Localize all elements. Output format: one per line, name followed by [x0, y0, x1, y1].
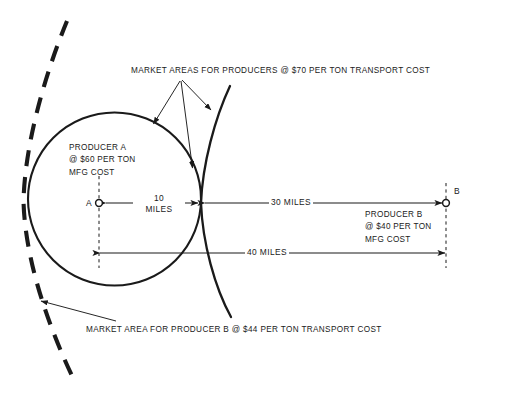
dim-label-10-miles: 10 MILES — [133, 193, 185, 215]
leader-arrow-to-dashed-curve — [41, 301, 116, 321]
producer-b-label: PRODUCER B @ $40 PER TON MFG COST — [365, 209, 432, 246]
point-label-b: B — [454, 186, 460, 196]
point-label-a: A — [86, 198, 92, 208]
market-area-diagram: MARKET AREAS FOR PRODUCERS @ $70 PER TON… — [0, 0, 509, 397]
producer-b-cost: @ $40 PER TON — [365, 221, 432, 233]
dim-label-30-miles: 30 MILES — [269, 197, 313, 208]
producer-a-name: PRODUCER A — [69, 142, 136, 154]
diagram-canvas — [0, 0, 509, 397]
bottom-caption: MARKET AREA FOR PRODUCER B @ $44 PER TON… — [86, 324, 382, 336]
point-marker-a — [96, 200, 103, 207]
producer-b-cost-kind: MFG COST — [365, 234, 432, 246]
dim-label-40-miles: 40 MILES — [245, 247, 289, 258]
producer-a-cost: @ $60 PER TON — [69, 154, 136, 166]
producer-a-label: PRODUCER A @ $60 PER TON MFG COST — [69, 142, 136, 179]
producer-b-hyperbola-44-curve — [24, 21, 75, 380]
top-caption: MARKET AREAS FOR PRODUCERS @ $70 PER TON… — [131, 65, 430, 77]
leader-arrow-to-circle — [154, 81, 181, 124]
leader-arrow-to-hyperbola — [182, 80, 211, 110]
dim-label-10-value: 10 — [135, 193, 183, 204]
producer-b-hyperbola-70-curve — [201, 86, 231, 317]
dim-label-10-unit: MILES — [135, 204, 183, 215]
producer-b-name: PRODUCER B — [365, 209, 432, 221]
point-marker-b — [443, 200, 450, 207]
leader-arrow-to-vertex — [181, 81, 193, 168]
producer-a-cost-kind: MFG COST — [69, 167, 136, 179]
